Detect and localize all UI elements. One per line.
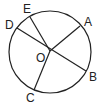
- point-labels: ABCDEO: [5, 2, 97, 105]
- circle-diagram: ABCDEO: [0, 0, 106, 105]
- label-c: C: [26, 91, 35, 105]
- label-e: E: [23, 2, 31, 16]
- label-o: O: [36, 51, 45, 65]
- segment-oe: [30, 17, 50, 51]
- label-b: B: [89, 70, 97, 84]
- label-a: A: [84, 15, 92, 29]
- label-d: D: [5, 18, 14, 32]
- segment-oa: [50, 26, 80, 51]
- segments: [17, 17, 86, 90]
